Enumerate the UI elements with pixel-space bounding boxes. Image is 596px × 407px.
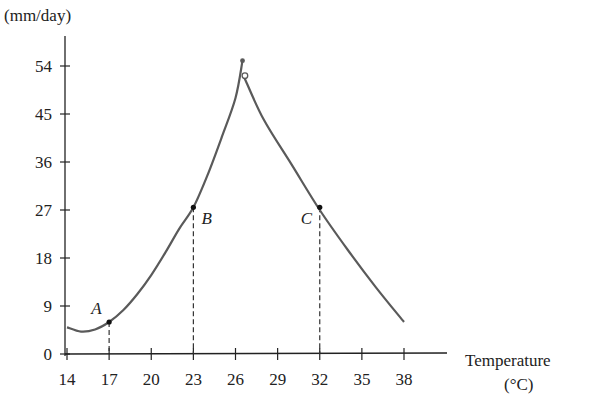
x-tick-label: 20	[143, 370, 160, 389]
x-tick-label: 38	[396, 370, 413, 389]
curve-falling	[244, 77, 404, 322]
y-axis-label: (mm/day)	[4, 6, 71, 25]
y-tick-label: 27	[35, 201, 53, 220]
y-tick-label: 18	[35, 249, 52, 268]
x-axis	[65, 353, 447, 354]
chart: (mm/day) 091827364554 141720232629323538…	[0, 0, 596, 407]
curve-rising	[67, 61, 243, 332]
point-label: B	[201, 209, 212, 228]
x-tick-label: 14	[59, 370, 77, 389]
point-marker	[317, 205, 322, 210]
y-tick-label: 45	[35, 105, 52, 124]
point-marker	[191, 205, 196, 210]
x-axis-label-line1: Temperature	[465, 351, 551, 370]
point-marker	[107, 319, 112, 324]
y-tick-label: 0	[44, 345, 53, 364]
x-tick-label: 29	[269, 370, 286, 389]
x-tick-label: 17	[101, 370, 119, 389]
x-tick-label: 35	[353, 370, 370, 389]
point-label: C	[301, 209, 313, 228]
point-label: A	[90, 299, 102, 318]
x-tick-label: 23	[185, 370, 202, 389]
x-tick-label: 32	[311, 370, 328, 389]
y-tick-label: 36	[35, 153, 52, 172]
x-axis-label-line2: (°C)	[504, 375, 533, 394]
x-tick-label: 26	[227, 370, 244, 389]
labeled-points: ABC	[90, 205, 322, 325]
y-tick-label: 54	[35, 57, 53, 76]
dashed-drop-lines	[109, 207, 320, 354]
y-tick-label: 9	[44, 297, 53, 316]
